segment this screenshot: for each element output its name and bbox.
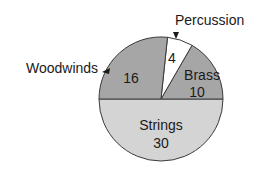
strings-name-label: Strings — [139, 117, 183, 133]
slice-woodwinds — [99, 37, 168, 99]
brass-value-label: 10 — [189, 84, 205, 100]
percussion-callout-label: Percussion — [175, 12, 244, 28]
percussion-value-label: 4 — [168, 50, 176, 66]
strings-value-label: 30 — [153, 135, 169, 151]
woodwinds-value-label: 16 — [123, 70, 139, 86]
woodwinds-callout-label: Woodwinds — [26, 60, 98, 76]
pie-chart: 16 4 Brass 10 Strings 30 Percussion Wood… — [0, 0, 257, 169]
brass-name-label: Brass — [184, 67, 220, 83]
woodwinds-arrow-icon — [102, 68, 110, 74]
